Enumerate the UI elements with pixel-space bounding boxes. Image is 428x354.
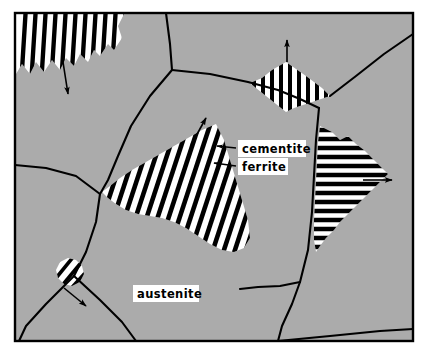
label-text-austenite: austenite [137,287,202,301]
label-austenite: austenite [133,285,202,302]
microstructure-diagram: cementite ferrite austenite [0,0,428,354]
microstructure-figure: cementite ferrite austenite [0,0,428,354]
label-text-ferrite: ferrite [242,160,286,174]
label-text-cementite: cementite [242,142,311,156]
